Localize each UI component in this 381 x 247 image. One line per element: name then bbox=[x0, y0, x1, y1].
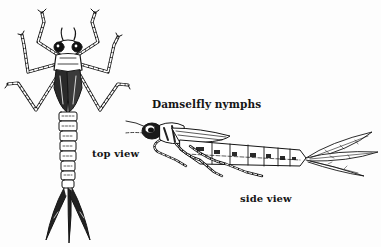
top-view-label: top view bbox=[92, 148, 139, 159]
damselfly-figure: Damselfly nymphs top view side view bbox=[0, 0, 381, 247]
figure-title: Damselfly nymphs bbox=[152, 98, 261, 110]
side-view-label: side view bbox=[240, 193, 292, 204]
side-view-nymph bbox=[125, 121, 378, 176]
nymph-illustrations bbox=[0, 0, 381, 247]
top-view-nymph bbox=[5, 9, 130, 243]
